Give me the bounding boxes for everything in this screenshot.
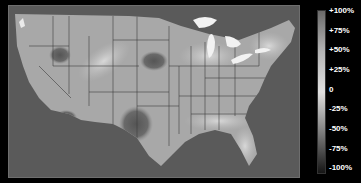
great-basin-anomaly <box>49 46 71 64</box>
plains-anomaly <box>140 51 168 71</box>
legend-colorbar <box>317 10 326 174</box>
legend-tick: 0 <box>329 86 333 94</box>
us-anomaly-map <box>8 5 300 178</box>
legend-tick: +50% <box>329 46 350 54</box>
legend-tick: -75% <box>329 145 348 153</box>
legend-tick: +75% <box>329 27 350 35</box>
us-map-graphic <box>9 6 300 178</box>
legend-tick: -50% <box>329 125 348 133</box>
legend-tick: +100% <box>329 7 354 15</box>
legend-tick: -100% <box>329 164 352 172</box>
legend-tick: -25% <box>329 105 348 113</box>
legend-tick: +25% <box>329 66 350 74</box>
